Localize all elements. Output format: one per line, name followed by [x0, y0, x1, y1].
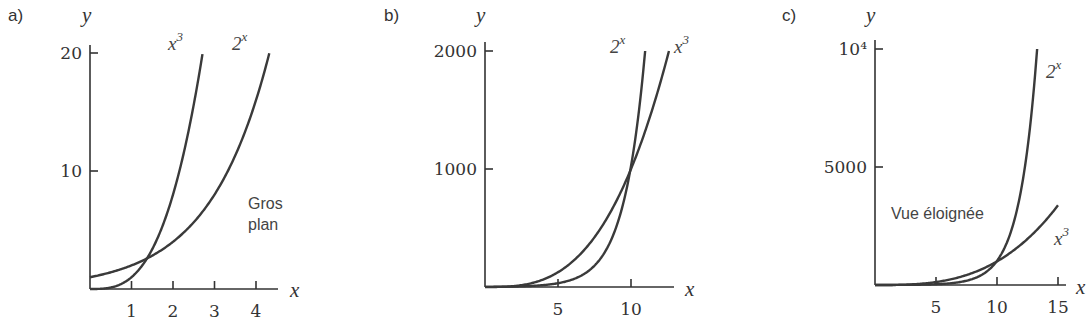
y-tick-label: 1000 [434, 159, 477, 179]
curve-label: 2x [610, 32, 626, 57]
x-axis-label: x [1075, 275, 1086, 299]
x-axis-label: x [289, 278, 300, 302]
panel-label: b) [384, 6, 399, 25]
x-tick-label: 1 [126, 301, 137, 321]
curve-label: x3 [1053, 224, 1069, 249]
curve-x-pow-3 [90, 54, 202, 289]
figure-three-panels: a)yx12341020x32xGrosplanb)yx510100020002… [0, 0, 1089, 332]
x-tick-label: 10 [986, 297, 1008, 317]
chart-panel-c: c)yx51015500010⁴2xx3Vue éloignée [782, 3, 1086, 317]
x-tick-label: 4 [251, 301, 262, 321]
curve-label: x3 [673, 32, 689, 57]
curve-label: x3 [167, 29, 183, 54]
chart-panel-a: a)yx12341020x32xGrosplan [8, 3, 300, 321]
chart-panel-b: b)yx510100020002xx3 [384, 3, 695, 319]
y-tick-label: 10 [60, 161, 82, 181]
curve-2-pow-x [485, 51, 645, 287]
x-axis-label: x [684, 277, 695, 301]
panel-label: c) [782, 6, 796, 25]
view-annotation: Vue éloignée [891, 205, 984, 222]
y-axis-label: y [474, 3, 486, 27]
x-tick-label: 5 [931, 297, 942, 317]
y-tick-label: 2000 [434, 41, 477, 61]
y-axis-label: y [80, 3, 92, 27]
y-tick-label: 20 [60, 43, 82, 63]
y-tick-label: 5000 [824, 157, 867, 177]
x-tick-label: 2 [168, 301, 179, 321]
curve-label: 2x [232, 29, 248, 54]
x-tick-label: 15 [1047, 297, 1069, 317]
x-tick-label: 10 [620, 299, 642, 319]
y-tick-label: 10⁴ [839, 39, 868, 59]
x-tick-label: 3 [209, 301, 220, 321]
y-axis-label: y [864, 3, 876, 27]
curve-label: 2x [1046, 57, 1062, 82]
x-tick-label: 5 [553, 299, 564, 319]
panel-label: a) [8, 6, 23, 25]
view-annotation: Grosplan [248, 195, 283, 233]
